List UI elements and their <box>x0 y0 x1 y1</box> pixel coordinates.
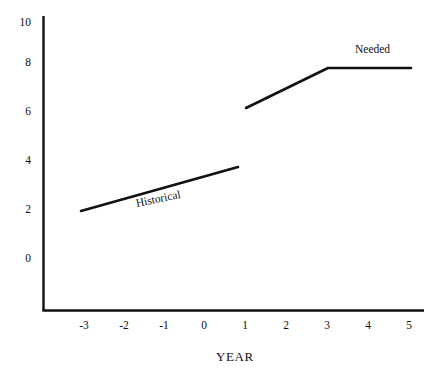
y-tick-label: 0 <box>5 253 31 265</box>
x-tick-label: -2 <box>111 320 137 332</box>
x-tick-label: 3 <box>314 320 340 332</box>
series-label-needed: Needed <box>355 44 390 56</box>
series-line-needed <box>246 68 411 108</box>
x-tick-label: 0 <box>191 320 217 332</box>
x-tick-label: -3 <box>71 320 97 332</box>
x-tick-label: 2 <box>273 320 299 332</box>
y-tick-label: 10 <box>5 17 31 29</box>
x-tick-label: 5 <box>396 320 422 332</box>
x-tick-label: -1 <box>151 320 177 332</box>
y-tick-label: 4 <box>5 155 31 167</box>
x-tick-label: 1 <box>232 320 258 332</box>
y-tick-label: 2 <box>5 204 31 216</box>
line-chart: 10 8 6 4 2 0 -3 -2 -1 0 1 2 3 4 5 YEAR H… <box>0 0 446 378</box>
x-tick-label: 4 <box>355 320 381 332</box>
y-tick-label: 6 <box>5 106 31 118</box>
y-tick-label: 8 <box>5 57 31 69</box>
x-axis-title: YEAR <box>190 350 280 363</box>
